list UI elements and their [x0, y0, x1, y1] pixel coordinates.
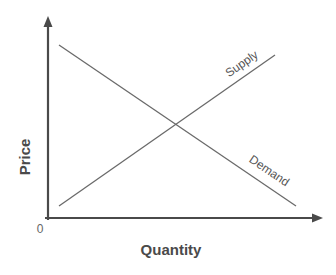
supply-label: Supply: [223, 47, 261, 80]
origin-label: 0: [37, 222, 44, 236]
supply-demand-diagram: Supply Demand Price Quantity 0: [0, 0, 336, 275]
x-axis: [45, 214, 323, 223]
y-axis-title: Price: [16, 139, 33, 176]
demand-label: Demand: [247, 152, 292, 189]
supply-curve: [59, 55, 275, 206]
y-axis-arrow-icon: [44, 16, 53, 27]
x-axis-title: Quantity: [141, 241, 202, 258]
x-axis-arrow-icon: [312, 214, 323, 223]
y-axis: [44, 16, 53, 220]
